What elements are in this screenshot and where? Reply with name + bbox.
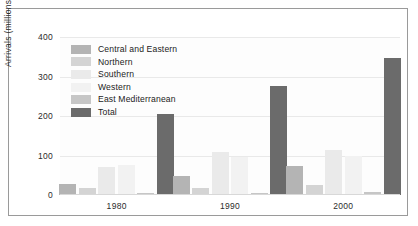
y-tick-label: 200 (9, 112, 53, 121)
bar (384, 58, 401, 195)
bar (286, 166, 303, 195)
legend-swatch-icon (71, 45, 91, 54)
legend-label: East Mediterranean (98, 95, 176, 104)
x-tick-label: 1990 (173, 201, 286, 211)
bar (157, 114, 174, 195)
bar (345, 156, 362, 196)
chart-legend: Central and EasternNorthernSouthernWeste… (71, 43, 177, 119)
legend-label: Central and Eastern (98, 45, 177, 54)
bar (173, 176, 190, 195)
y-tick-label: 400 (9, 33, 53, 42)
bar-group (286, 37, 401, 195)
legend-swatch-icon (71, 108, 91, 117)
legend-item: East Mediterranean (71, 93, 177, 106)
legend-swatch-icon (71, 83, 91, 92)
x-axis-line (60, 194, 400, 195)
legend-item: Northern (71, 56, 177, 69)
bar (118, 165, 135, 195)
legend-item: Southern (71, 68, 177, 81)
y-tick-label: 100 (9, 152, 53, 161)
chart-frame: Arrivals (millions) 0100200300400 198019… (8, 8, 408, 216)
legend-label: Western (98, 83, 131, 92)
legend-swatch-icon (71, 95, 91, 104)
x-tick-label: 1980 (60, 201, 173, 211)
legend-label: Total (98, 108, 117, 117)
legend-swatch-icon (71, 57, 91, 66)
y-tick-label: 0 (9, 191, 53, 200)
legend-item: Total (71, 106, 177, 119)
bar-group (173, 37, 288, 195)
y-tick-label: 300 (9, 73, 53, 82)
legend-item: Western (71, 81, 177, 94)
bar (325, 150, 342, 195)
x-tick-label: 2000 (287, 201, 400, 211)
bar (98, 167, 115, 195)
bar (212, 152, 229, 195)
legend-item: Central and Eastern (71, 43, 177, 56)
legend-label: Southern (98, 70, 134, 79)
legend-swatch-icon (71, 70, 91, 79)
bar (270, 86, 287, 195)
legend-label: Northern (98, 58, 133, 67)
bar (231, 157, 248, 195)
chart-figure: Arrivals (millions) 0100200300400 198019… (0, 0, 418, 226)
